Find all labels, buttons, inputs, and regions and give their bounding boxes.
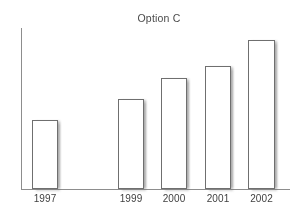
bar-2000 — [161, 78, 187, 189]
bar-chart-image: Option C 19971999200020012002 — [0, 0, 308, 220]
x-axis-label-2001: 2001 — [199, 193, 237, 205]
bar-rect-2000 — [161, 78, 187, 189]
x-axis-label-2000: 2000 — [155, 193, 193, 205]
plot-area — [0, 0, 308, 220]
bar-rect-1999 — [118, 99, 144, 189]
bar-rect-2002 — [248, 40, 275, 189]
bar-rect-1997 — [32, 120, 58, 189]
x-axis-label-1999: 1999 — [112, 193, 150, 205]
x-axis-label-2002: 2002 — [242, 193, 281, 205]
bar-1999 — [118, 99, 144, 189]
bar-2002 — [248, 40, 275, 189]
bar-rect-2001 — [205, 66, 231, 189]
bar-1997 — [32, 120, 58, 189]
x-axis-label-1997: 1997 — [26, 193, 64, 205]
bar-2001 — [205, 66, 231, 189]
